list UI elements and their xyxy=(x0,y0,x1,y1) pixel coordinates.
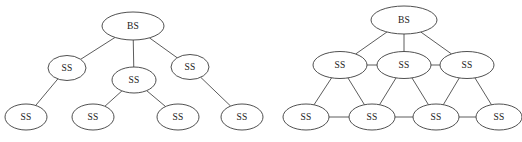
topology-edge xyxy=(380,78,397,105)
subscriber-station-node: SS xyxy=(5,104,47,130)
topology-edge xyxy=(133,40,134,67)
topology-edge xyxy=(475,78,492,105)
node-label: BS xyxy=(398,15,410,25)
node-label: SS xyxy=(367,112,378,122)
topology-edge xyxy=(149,38,177,58)
node-label: SS xyxy=(494,112,505,122)
topology-edge xyxy=(147,91,166,107)
topology-edge xyxy=(348,78,365,105)
node-label: SS xyxy=(185,62,196,72)
nodes-layer: BSSSSSSSSSSSSSSSBSSSSSSSSSSSSSSS xyxy=(5,6,522,130)
node-label: SS xyxy=(399,60,410,70)
subscriber-station-node: SS xyxy=(476,104,522,130)
node-label: SS xyxy=(129,75,140,85)
node-label: SS xyxy=(237,112,248,122)
node-label: SS xyxy=(88,112,99,122)
node-label: SS xyxy=(462,60,473,70)
subscriber-station-node: SS xyxy=(72,104,114,130)
base-station-node: BS xyxy=(102,12,164,40)
node-label: BS xyxy=(127,21,139,31)
node-label: SS xyxy=(173,112,184,122)
topology-edge xyxy=(314,78,332,105)
subscriber-station-node: SS xyxy=(48,56,86,81)
topology-edge xyxy=(421,32,452,54)
topology-edge xyxy=(201,77,231,106)
subscriber-station-node: SS xyxy=(440,52,494,79)
node-label: SS xyxy=(62,63,73,73)
topology-edge xyxy=(356,32,387,54)
node-label: SS xyxy=(21,112,32,122)
subscriber-station-node: SS xyxy=(221,104,263,130)
subscriber-station-node: SS xyxy=(171,55,209,80)
subscriber-station-node: SS xyxy=(377,52,431,79)
topology-edge xyxy=(36,79,58,106)
topology-edge xyxy=(81,37,115,59)
node-label: SS xyxy=(335,60,346,70)
topology-edge xyxy=(105,91,122,106)
subscriber-station-node: SS xyxy=(157,104,199,130)
subscriber-station-node: SS xyxy=(349,104,395,130)
node-label: SS xyxy=(431,112,442,122)
subscriber-station-node: SS xyxy=(283,104,329,130)
subscriber-station-node: SS xyxy=(112,67,156,93)
base-station-node: BS xyxy=(371,6,437,34)
network-topology-figure: BSSSSSSSSSSSSSSSBSSSSSSSSSSSSSSS xyxy=(0,0,522,142)
node-label: SS xyxy=(301,112,312,122)
topology-edge xyxy=(443,78,459,105)
topology-canvas: BSSSSSSSSSSSSSSSBSSSSSSSSSSSSSSS xyxy=(0,0,522,142)
topology-edge xyxy=(412,78,429,105)
subscriber-station-node: SS xyxy=(413,104,459,130)
subscriber-station-node: SS xyxy=(313,52,367,79)
